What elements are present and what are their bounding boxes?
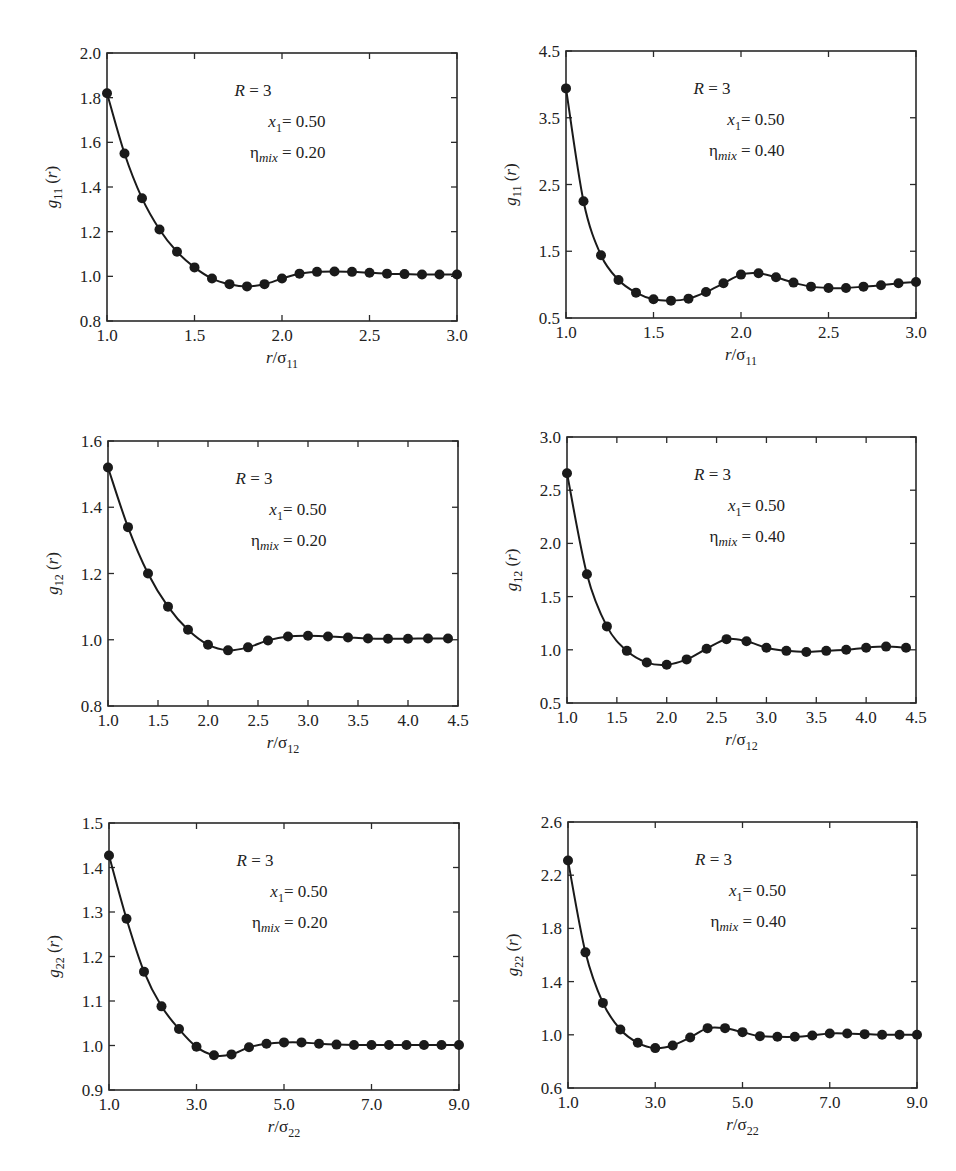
x-tick-label: 4.5 xyxy=(905,708,926,727)
data-point-marker xyxy=(894,278,904,288)
data-point-marker xyxy=(771,272,781,282)
x-tick-label: 4.0 xyxy=(856,708,877,727)
data-point-marker xyxy=(684,294,694,304)
y-tick-label: 0.9 xyxy=(82,1081,103,1100)
panel-4: 1.01.52.02.53.03.54.04.50.51.01.52.02.53… xyxy=(502,428,927,753)
x-tick-label: 9.0 xyxy=(448,1095,469,1114)
data-point-marker xyxy=(642,658,652,668)
data-point-marker xyxy=(417,270,427,280)
data-point-marker xyxy=(349,1040,359,1050)
annotation-x1: x1= 0.50 xyxy=(269,882,327,905)
data-point-marker xyxy=(772,1032,782,1042)
x-tick-label: 2.5 xyxy=(359,326,380,345)
y-tick-label: 2.0 xyxy=(540,534,561,553)
data-point-marker xyxy=(225,279,235,289)
y-tick-label: 1.1 xyxy=(82,992,103,1011)
y-axis-title: g12 (r) xyxy=(43,552,66,595)
data-point-marker xyxy=(860,1029,870,1039)
data-point-marker xyxy=(419,1040,429,1050)
data-point-marker xyxy=(649,294,659,304)
data-point-marker xyxy=(174,1024,184,1034)
data-point-marker xyxy=(279,1037,289,1047)
annotation-eta-mix: ηmix = 0.20 xyxy=(251,531,327,553)
data-point-marker xyxy=(365,268,375,278)
data-point-marker xyxy=(314,1039,324,1049)
data-point-marker xyxy=(662,660,672,670)
data-point-marker xyxy=(163,602,173,612)
data-point-marker xyxy=(598,998,608,1008)
y-tick-label: 0.8 xyxy=(81,697,102,716)
data-point-marker xyxy=(562,468,572,478)
data-point-marker xyxy=(244,1042,254,1052)
data-point-marker xyxy=(423,633,433,643)
x-axis-title: r/σ12 xyxy=(725,730,758,753)
y-tick-label: 3.0 xyxy=(540,428,561,447)
data-point-marker xyxy=(452,270,462,280)
data-point-marker xyxy=(876,280,886,290)
data-point-marker xyxy=(403,634,413,644)
x-tick-label: 1.5 xyxy=(184,326,205,345)
annotation-eta-mix: ηmix = 0.40 xyxy=(711,912,787,934)
data-point-marker xyxy=(579,196,589,206)
data-point-marker xyxy=(754,268,764,278)
x-tick-label: 1.5 xyxy=(643,323,664,342)
data-point-marker xyxy=(102,88,112,98)
y-axis-title: g11 (r) xyxy=(42,166,65,208)
x-tick-label: 2.0 xyxy=(271,326,292,345)
y-tick-label: 2.2 xyxy=(541,866,562,885)
rdf-figure-grid: 1.01.52.02.53.00.81.01.21.41.61.82.0r/σ1… xyxy=(0,0,956,1171)
data-point-marker xyxy=(580,947,590,957)
data-point-marker xyxy=(841,283,851,293)
data-point-marker xyxy=(755,1031,765,1041)
data-point-marker xyxy=(435,270,445,280)
data-point-marker xyxy=(123,522,133,532)
x-tick-label: 3.0 xyxy=(186,1095,207,1114)
annotation-eta-mix: ηmix = 0.20 xyxy=(252,913,328,935)
x-tick-label: 9.0 xyxy=(906,1093,927,1112)
data-point-marker xyxy=(801,647,811,657)
data-point-marker xyxy=(861,643,871,653)
x-tick-label: 3.5 xyxy=(347,711,368,730)
data-point-marker xyxy=(277,274,287,284)
theory-curve xyxy=(108,468,448,651)
y-tick-label: 1.5 xyxy=(82,814,103,833)
data-point-marker xyxy=(702,644,712,654)
y-tick-label: 1.0 xyxy=(82,1037,103,1056)
data-point-marker xyxy=(155,224,165,234)
annotation-x1: x1= 0.50 xyxy=(727,496,785,519)
panel-2: 1.01.52.02.53.00.51.52.53.54.5r/σ11g11 (… xyxy=(501,42,927,368)
annotation-R: R = 3 xyxy=(234,81,272,100)
data-point-marker xyxy=(722,634,732,644)
y-tick-label: 1.5 xyxy=(539,242,560,261)
data-point-marker xyxy=(137,193,147,203)
data-point-marker xyxy=(402,1040,412,1050)
data-point-marker xyxy=(841,645,851,655)
y-tick-label: 3.5 xyxy=(539,109,560,128)
data-point-marker xyxy=(367,1040,377,1050)
y-axis-title: g12 (r) xyxy=(502,549,525,592)
data-point-marker xyxy=(666,296,676,306)
data-point-marker xyxy=(242,281,252,291)
y-tick-label: 1.3 xyxy=(82,903,103,922)
data-point-marker xyxy=(262,1039,272,1049)
annotation-eta-mix: ηmix = 0.40 xyxy=(710,527,786,549)
data-point-marker xyxy=(881,642,891,652)
data-point-marker xyxy=(207,274,217,284)
axes-frame xyxy=(108,441,458,706)
data-point-marker xyxy=(295,269,305,279)
data-point-marker xyxy=(701,287,711,297)
data-point-marker xyxy=(400,269,410,279)
data-point-marker xyxy=(157,1001,167,1011)
x-tick-label: 7.0 xyxy=(361,1095,382,1114)
y-tick-label: 1.4 xyxy=(82,859,104,878)
data-point-marker xyxy=(821,646,831,656)
y-tick-label: 0.5 xyxy=(539,309,560,328)
data-point-marker xyxy=(183,625,193,635)
y-tick-label: 1.0 xyxy=(541,1026,562,1045)
data-point-marker xyxy=(303,631,313,641)
x-axis-title: r/σ11 xyxy=(725,345,757,368)
data-point-marker xyxy=(347,267,357,277)
annotation-x1: x1= 0.50 xyxy=(728,881,786,904)
data-point-marker xyxy=(209,1050,219,1060)
data-point-marker xyxy=(139,967,149,977)
